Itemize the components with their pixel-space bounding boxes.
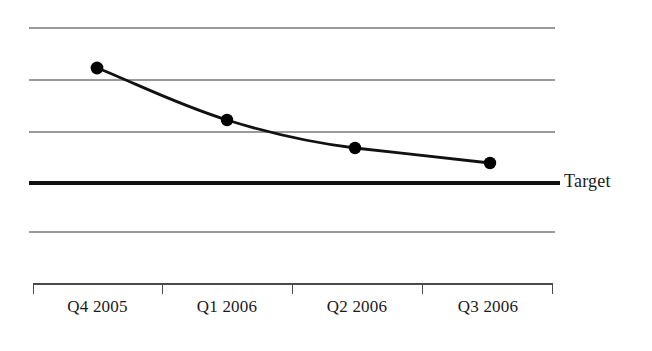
x-axis-label-q1-2006: Q1 2006 xyxy=(167,298,287,315)
x-axis-label-q4-2005: Q4 2005 xyxy=(38,298,157,315)
chart-container: Target Q4 2005 Q1 2006 Q2 2006 Q3 2006 xyxy=(0,0,652,351)
series-trend-curve xyxy=(97,68,490,163)
x-axis-group xyxy=(33,284,553,294)
data-point-q4-2005 xyxy=(91,62,104,75)
series-markers-group xyxy=(91,62,497,170)
data-point-q2-2006 xyxy=(349,142,361,154)
target-line-label: Target xyxy=(564,172,611,190)
data-point-q3-2006 xyxy=(484,157,496,169)
x-axis-label-q2-2006: Q2 2006 xyxy=(297,298,417,315)
gridlines-group xyxy=(29,28,555,232)
x-axis-label-q3-2006: Q3 2006 xyxy=(428,298,548,315)
data-point-q1-2006 xyxy=(221,114,233,126)
